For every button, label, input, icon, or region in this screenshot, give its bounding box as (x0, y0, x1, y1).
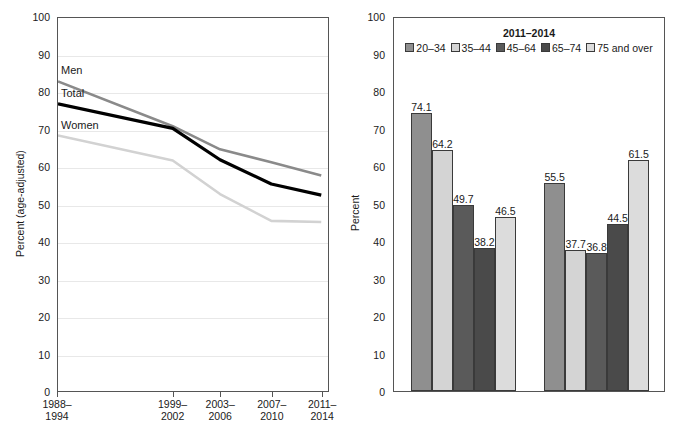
bar-chart-y-tick-40: 40 (355, 237, 385, 248)
line-chart-y-tick-10: 10 (20, 350, 50, 361)
bar-value-label: 46.5 (489, 206, 521, 217)
line-chart-x-tick-4: 2011– 2014 (292, 399, 352, 422)
bar-value-label: 55.5 (539, 172, 571, 183)
line-series-label-total: Total (61, 88, 84, 99)
bar (565, 250, 586, 391)
line-chart-y-tick-0: 0 (20, 387, 50, 398)
line-series-women (58, 135, 321, 222)
line-chart-y-tick-40: 40 (20, 237, 50, 248)
bar-chart-bars-layer: 74.164.249.738.246.555.537.736.844.561.5 (394, 18, 664, 391)
bar-chart-y-tick-20: 20 (355, 312, 385, 323)
line-chart-series-layer (58, 18, 328, 391)
x-tick-mark (322, 392, 323, 397)
bar (544, 183, 565, 391)
bar (628, 160, 649, 391)
line-series-label-men: Men (61, 65, 82, 76)
line-chart-y-tick-100: 100 (20, 12, 50, 23)
x-tick-mark (173, 392, 174, 397)
x-tick-mark (57, 392, 58, 397)
bar-value-label: 74.1 (405, 102, 437, 113)
line-series-label-women: Women (61, 120, 99, 131)
bar-value-label: 64.2 (426, 139, 458, 150)
line-chart-y-tick-20: 20 (20, 312, 50, 323)
bar-chart-panel: Percent 0102030405060708090100 2011–2014… (345, 0, 673, 432)
x-tick-mark (272, 392, 273, 397)
bar (586, 253, 607, 391)
line-chart-y-tick-60: 60 (20, 162, 50, 173)
line-chart-y-tick-80: 80 (20, 87, 50, 98)
bar-chart-plot-area: 2011–2014 20–3435–4445–6465–7475 and ove… (393, 17, 665, 392)
bar-chart-y-tick-90: 90 (355, 50, 385, 61)
bar-chart-y-tick-70: 70 (355, 125, 385, 136)
bar-chart-y-tick-80: 80 (355, 87, 385, 98)
bar (495, 217, 516, 391)
bar-value-label: 61.5 (623, 149, 655, 160)
bar (411, 113, 432, 391)
bar-chart-y-tick-60: 60 (355, 162, 385, 173)
line-chart-y-tick-90: 90 (20, 50, 50, 61)
bar-chart-y-tick-0: 0 (355, 387, 385, 398)
bar (607, 224, 628, 391)
line-chart-plot-area (57, 17, 329, 392)
bar (432, 150, 453, 391)
line-chart-y-tick-30: 30 (20, 275, 50, 286)
bar-chart-y-tick-50: 50 (355, 200, 385, 211)
line-chart-y-tick-70: 70 (20, 125, 50, 136)
x-tick-mark (220, 392, 221, 397)
line-series-total (58, 104, 321, 195)
bar-chart-y-tick-100: 100 (355, 12, 385, 23)
bar-value-label: 49.7 (447, 194, 479, 205)
bar (474, 248, 495, 391)
bar-chart-y-tick-30: 30 (355, 275, 385, 286)
line-chart-x-tick-0: 1988– 1994 (27, 399, 87, 422)
bar (453, 205, 474, 391)
figure-root: Percent (age-adjusted) 01020304050607080… (0, 0, 673, 432)
line-chart-panel: Percent (age-adjusted) 01020304050607080… (0, 0, 345, 432)
bar-chart-y-tick-10: 10 (355, 350, 385, 361)
line-chart-y-tick-50: 50 (20, 200, 50, 211)
